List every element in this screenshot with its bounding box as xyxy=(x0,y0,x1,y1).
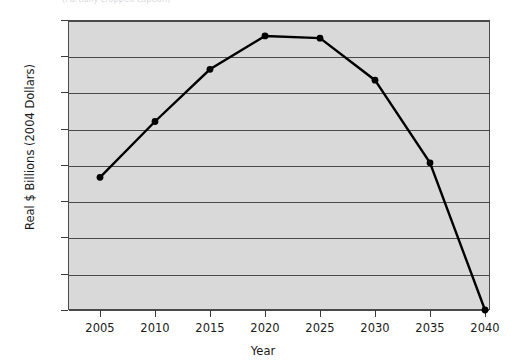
data-point xyxy=(482,307,489,314)
line-chart: (Partially cropped caption) 4000 3500 30… xyxy=(0,0,526,364)
series-layer xyxy=(0,0,526,364)
data-point xyxy=(427,159,434,166)
data-point xyxy=(262,33,269,40)
series-line xyxy=(100,36,485,310)
series-markers xyxy=(97,33,489,314)
data-point xyxy=(97,174,104,181)
data-point xyxy=(317,35,324,42)
data-point xyxy=(207,66,214,73)
data-point xyxy=(152,118,159,125)
data-point xyxy=(372,77,379,84)
